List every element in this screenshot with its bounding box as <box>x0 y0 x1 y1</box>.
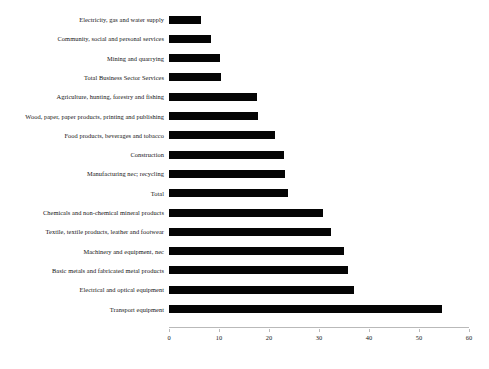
bar-row: Agriculture, hunting, forestry and fishi… <box>169 87 469 106</box>
x-axis-tick-label: 60 <box>466 334 472 342</box>
x-axis-line <box>169 327 469 328</box>
bar <box>169 228 331 236</box>
bar-row: Total Business Sector Services <box>169 68 469 87</box>
bar-category-label: Chemicals and non-chemical mineral produ… <box>43 203 164 222</box>
bar-category-label: Basic metals and fabricated metal produc… <box>52 261 164 280</box>
bar <box>169 35 211 43</box>
bar-chart: Electricity, gas and water supplyCommuni… <box>0 0 489 369</box>
bar-row: Wood, paper, paper products, printing an… <box>169 107 469 126</box>
x-axis-tick <box>469 329 470 332</box>
bar <box>169 266 348 274</box>
bar <box>169 112 258 120</box>
bar <box>169 16 201 24</box>
bar-category-label: Transport equipment <box>110 300 164 319</box>
bar-category-label: Agriculture, hunting, forestry and fishi… <box>56 87 164 106</box>
bar <box>169 131 275 139</box>
x-axis-tick-label: 0 <box>167 334 170 342</box>
bar-category-label: Food products, beverages and tobacco <box>64 126 164 145</box>
bar-category-label: Total Business Sector Services <box>84 68 164 87</box>
bar-category-label: Electricity, gas and water supply <box>79 10 164 29</box>
bar-category-label: Electrical and optical equipment <box>80 280 164 299</box>
bar <box>169 170 285 178</box>
bar-row: Food products, beverages and tobacco <box>169 126 469 145</box>
x-axis-tick <box>219 329 220 332</box>
bar-category-label: Construction <box>130 145 164 164</box>
x-axis-tick <box>419 329 420 332</box>
bar-category-label: Manufacturing nec; recycling <box>87 164 164 183</box>
bar <box>169 305 442 313</box>
bar-category-label: Wood, paper, paper products, printing an… <box>25 107 164 126</box>
x-axis-tick <box>319 329 320 332</box>
bar <box>169 189 288 197</box>
bar-row: Electricity, gas and water supply <box>169 10 469 29</box>
x-axis-tick-label: 50 <box>416 334 422 342</box>
bar-category-label: Community, social and personal services <box>58 29 164 48</box>
bar <box>169 93 257 101</box>
x-axis-tick <box>169 329 170 332</box>
x-axis-tick-label: 40 <box>366 334 372 342</box>
bar <box>169 73 221 81</box>
bar <box>169 209 323 217</box>
bar-row: Total <box>169 184 469 203</box>
bar-category-label: Mining and quarrying <box>107 49 164 68</box>
plot-area: Electricity, gas and water supplyCommuni… <box>169 10 469 325</box>
bar-row: Chemicals and non-chemical mineral produ… <box>169 203 469 222</box>
bar-category-label: Textile, textile products, leather and f… <box>46 222 165 241</box>
bar-row: Electrical and optical equipment <box>169 280 469 299</box>
x-axis-tick-label: 10 <box>216 334 222 342</box>
bar-row: Transport equipment <box>169 300 469 319</box>
bar-row: Construction <box>169 145 469 164</box>
bar <box>169 247 344 255</box>
bar-row: Basic metals and fabricated metal produc… <box>169 261 469 280</box>
bar-category-label: Machinery and equipment, nec <box>83 242 164 261</box>
x-axis-tick-label: 30 <box>316 334 322 342</box>
x-axis-tick <box>369 329 370 332</box>
bar-row: Machinery and equipment, nec <box>169 242 469 261</box>
bar-row: Mining and quarrying <box>169 49 469 68</box>
x-axis-tick-label: 20 <box>266 334 272 342</box>
bar <box>169 151 284 159</box>
bar <box>169 54 220 62</box>
bar-row: Textile, textile products, leather and f… <box>169 222 469 241</box>
bar <box>169 286 354 294</box>
bar-category-label: Total <box>151 184 164 203</box>
x-axis-tick <box>269 329 270 332</box>
bar-row: Manufacturing nec; recycling <box>169 164 469 183</box>
bar-row: Community, social and personal services <box>169 29 469 48</box>
